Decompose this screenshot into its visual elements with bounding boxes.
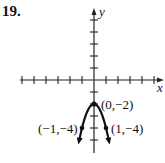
x-axis [20,76,164,84]
coordinate-plane: x y (0,−2) (−1,−4) (1,−4) [0,0,165,163]
y-axis-label: y [97,4,105,19]
left-point [80,126,85,131]
vertex-label: (0,−2) [101,97,133,112]
curve-arrow-left-icon [77,137,83,144]
left-point-label: (−1,−4) [38,121,78,136]
vertex-point [91,101,96,106]
right-point [104,126,109,131]
x-axis-label: x [156,80,163,95]
y-axis-arrow-icon [92,8,97,15]
graph-figure: 19. x y (0,−2) (−1,−4) (1,−4) [0,0,165,163]
right-point-label: (1,−4) [111,121,143,136]
curve-arrow-right-icon [105,137,111,144]
problem-number: 19. [2,3,21,20]
